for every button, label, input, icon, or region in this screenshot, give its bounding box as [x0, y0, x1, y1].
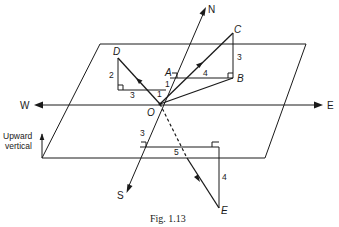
east-label: E — [327, 100, 334, 111]
point-d-label: D — [113, 46, 120, 57]
south-arrow-icon — [127, 184, 133, 193]
point-e-label: E — [221, 205, 228, 216]
horizontal-plane — [42, 44, 306, 158]
d-right-angle-icon — [118, 85, 123, 90]
north-south-axis — [128, 12, 204, 188]
vector-oe-arrow-icon — [194, 175, 200, 183]
figure-caption: Fig. 1.13 — [150, 213, 186, 224]
origin-label: O — [147, 107, 155, 118]
e-south-right-angle-icon — [141, 142, 146, 147]
ab-length: 4 — [203, 68, 208, 78]
e-down-length: 4 — [222, 172, 227, 182]
north-arrow-icon — [200, 7, 207, 16]
vector-diagram: W E N S Upward vertical O D 2 3 1 A B C … — [0, 0, 339, 227]
bc-length: 3 — [237, 52, 242, 62]
e-east-length: 5 — [174, 147, 179, 157]
upward-vertical-label-2: vertical — [5, 141, 32, 151]
west-label: W — [20, 100, 30, 111]
south-label: S — [117, 190, 124, 201]
west-arrow-icon — [34, 102, 43, 109]
origin-point — [159, 103, 162, 106]
vector-oe — [187, 158, 219, 208]
d-horizontal-length: 3 — [130, 90, 135, 100]
e-south-length: 3 — [140, 128, 145, 138]
d-vertical-length: 2 — [109, 70, 114, 80]
point-a-label: A — [164, 67, 172, 78]
d-north-offset-length: 1 — [157, 89, 162, 99]
b-right-angle-icon — [228, 73, 233, 78]
e-east-right-angle-icon — [212, 142, 219, 147]
point-c-label: C — [234, 24, 242, 35]
vector-ob — [160, 78, 233, 104]
upward-vertical-label-1: Upward — [3, 131, 33, 141]
east-arrow-icon — [314, 102, 323, 109]
point-b-label: B — [237, 73, 244, 84]
north-label: N — [208, 4, 215, 15]
oa-length: 1 — [165, 79, 170, 89]
